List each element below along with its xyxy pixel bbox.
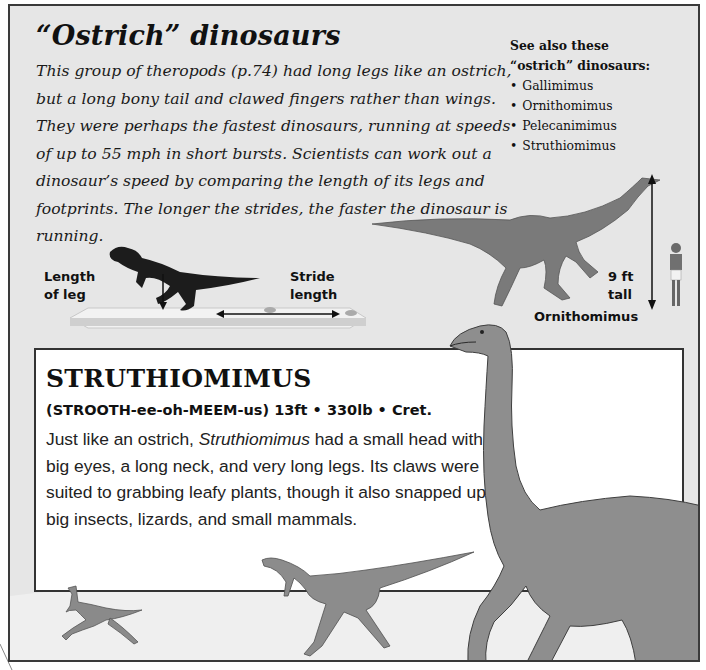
foreground-illustrations	[10, 6, 700, 662]
book-page: “Ostrich” dinosaurs This group of therop…	[8, 4, 700, 662]
struthiomimus-figure	[450, 325, 700, 662]
running-dinosaur	[262, 552, 474, 656]
small-running-dinosaur	[62, 586, 142, 644]
